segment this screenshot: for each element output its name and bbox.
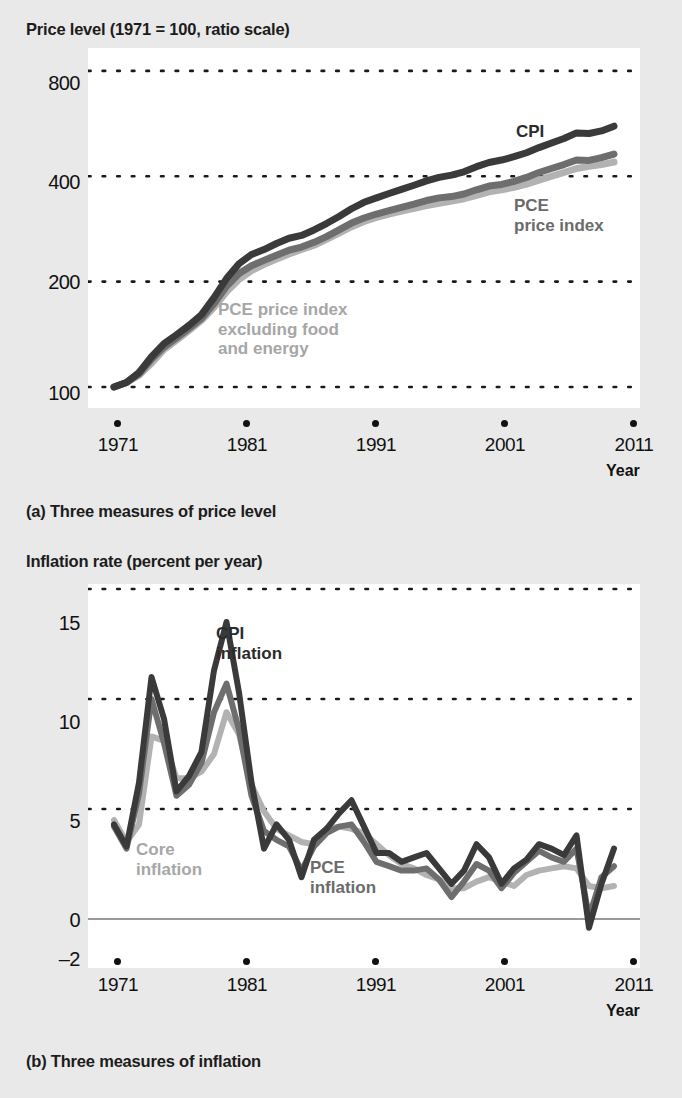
panel-a-xtick-1981: 1981	[201, 434, 293, 456]
panel-a-label-pce-l2: price index	[514, 216, 604, 236]
panel-a-ytick-100: 100	[18, 382, 80, 405]
panel-b-label-cpi-l2: inflation	[216, 644, 282, 664]
panel-a-tickdot-2001	[501, 420, 508, 427]
panel-b-tickdot-2011	[630, 958, 637, 965]
panel-a-ytick-800: 800	[18, 72, 80, 95]
panel-a-tickdot-2011	[630, 420, 637, 427]
panel-a-label-core-l2: excluding food	[218, 320, 347, 340]
panel-b-plot-area	[88, 584, 640, 968]
panel-price-level: Price level (1971 = 100, ratio scale) 80…	[0, 0, 682, 520]
panel-a-xtick-1991: 1991	[330, 434, 422, 456]
panel-b-tickdot-1991	[372, 958, 379, 965]
panel-b-xtick-2011: 2011	[588, 974, 680, 996]
panel-a-ytick-200: 200	[18, 271, 80, 294]
panel-inflation-rate: Inflation rate (percent per year) 15 10 …	[0, 540, 682, 1098]
panel-a-tickdot-1971	[114, 420, 121, 427]
panel-b-ytick-10: 10	[18, 711, 80, 734]
panel-b-tickdot-2001	[501, 958, 508, 965]
panel-b-label-pce: PCE inflation	[310, 858, 376, 897]
panel-b-label-core: Core inflation	[136, 840, 202, 879]
panel-a-label-pce-l1: PCE	[514, 196, 604, 216]
panel-b-xtick-1991: 1991	[330, 974, 422, 996]
panel-a-tickdot-1981	[243, 420, 250, 427]
panel-a-label-cpi: CPI	[516, 122, 544, 142]
panel-a-label-cpi-text: CPI	[516, 122, 544, 141]
panel-a-axis-title: Price level (1971 = 100, ratio scale)	[26, 20, 290, 39]
panel-b-caption: (b) Three measures of inflation	[26, 1052, 261, 1071]
panel-b-label-core-l2: inflation	[136, 860, 202, 880]
panel-b-tickdot-1981	[243, 958, 250, 965]
panel-b-label-core-l1: Core	[136, 840, 202, 860]
panel-a-xtick-2011: 2011	[588, 434, 680, 456]
panel-a-xtick-1971: 1971	[72, 434, 164, 456]
panel-b-chart	[88, 584, 640, 968]
panel-b-label-cpi: CPI inflation	[216, 624, 282, 663]
panel-a-label-core-l1: PCE price index	[218, 300, 347, 320]
panel-b-x-axis-label: Year	[606, 1002, 640, 1020]
panel-a-xtick-2001: 2001	[459, 434, 551, 456]
panel-a-label-pce: PCE price index	[514, 196, 604, 235]
panel-b-xtick-1981: 1981	[201, 974, 293, 996]
panel-b-axis-title: Inflation rate (percent per year)	[26, 552, 262, 571]
panel-b-tickdot-1971	[114, 958, 121, 965]
panel-b-ytick-15: 15	[18, 612, 80, 635]
panel-b-label-cpi-l1: CPI	[216, 624, 282, 644]
panel-b-xtick-2001: 2001	[459, 974, 551, 996]
panel-a-ytick-400: 400	[18, 171, 80, 194]
panel-b-ytick-minus2: –2	[10, 948, 80, 971]
panel-a-tickdot-1991	[372, 420, 379, 427]
panel-b-xtick-1971: 1971	[72, 974, 164, 996]
panel-a-label-core-l3: and energy	[218, 339, 347, 359]
panel-a-caption: (a) Three measures of price level	[26, 502, 276, 521]
panel-b-label-pce-l2: inflation	[310, 878, 376, 898]
panel-a-x-axis-label: Year	[606, 462, 640, 480]
panel-b-ytick-5: 5	[18, 810, 80, 833]
panel-b-label-pce-l1: PCE	[310, 858, 376, 878]
panel-b-ytick-0: 0	[18, 909, 80, 932]
panel-a-label-core: PCE price index excluding food and energ…	[218, 300, 347, 359]
